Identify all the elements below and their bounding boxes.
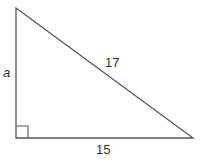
right-angle-marker: [16, 126, 28, 138]
label-vertical-leg: a: [3, 65, 10, 80]
triangle-shape: [16, 8, 193, 138]
triangle-diagram: a 17 15: [0, 0, 210, 163]
label-hypotenuse: 17: [105, 55, 119, 70]
label-horizontal-leg: 15: [96, 142, 110, 157]
